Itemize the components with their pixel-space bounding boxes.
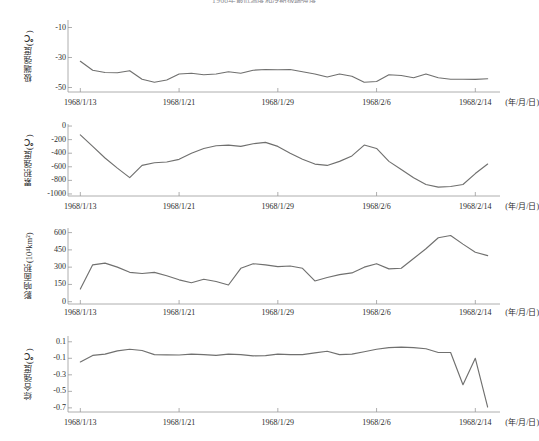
x-tick-label: 1968/1/21 xyxy=(163,202,195,211)
y-tick-label: -1000 xyxy=(47,190,66,198)
y-tick-label: -0.7 xyxy=(53,404,66,412)
chart-panel-composite-intensity: 综合强度(℃) 0.1-0.1-0.3-0.5-0.7 1968/1/13196… xyxy=(0,330,528,441)
x-tickmarks-panel-4 xyxy=(80,408,475,412)
y-tick-label: -400 xyxy=(51,149,66,157)
chart-panel-cumulative-intensity: 累积强度(℃) 0-200-400-600-800-1000 1968/1/13… xyxy=(0,118,528,224)
y-tick-label: 150 xyxy=(54,280,66,288)
y-axis-label-panel-4: 综合强度(℃) xyxy=(22,336,35,412)
y-tick-label: -30 xyxy=(55,54,66,62)
y-tickmarks-panel-2 xyxy=(68,126,72,194)
x-tick-label: 1968/1/13 xyxy=(64,202,96,211)
y-tickmarks-panel-4 xyxy=(68,342,72,408)
plot-area-panel-2 xyxy=(68,124,500,196)
x-tick-label: 1968/1/21 xyxy=(163,308,195,317)
line-chart-svg-panel-3 xyxy=(68,228,500,304)
figure-title: 1968年最低温度和冷期极端强度 xyxy=(0,0,528,3)
x-tickmarks-panel-2 xyxy=(80,192,475,196)
y-tick-label: -200 xyxy=(51,136,66,144)
plot-area-panel-1 xyxy=(68,20,500,92)
y-tick-label: -50 xyxy=(55,84,66,92)
y-tick-label: 0.1 xyxy=(56,338,66,346)
x-tick-label: 1968/1/13 xyxy=(64,308,96,317)
y-axis-label-panel-3: 影响面积(10⁴km²) xyxy=(22,228,35,304)
x-tickmarks-panel-3 xyxy=(80,300,475,304)
y-tick-label: -10 xyxy=(55,24,66,32)
x-tick-label: 1968/1/29 xyxy=(262,202,294,211)
y-tick-label: 0 xyxy=(62,122,66,130)
y-tick-label: -0.3 xyxy=(53,371,66,379)
x-tick-label: 1968/1/13 xyxy=(64,98,96,107)
x-axis-tick-labels-panel-4: 1968/1/131968/1/211968/1/291968/2/61968/… xyxy=(0,418,528,432)
x-tick-label: 1968/2/6 xyxy=(362,418,390,427)
x-tick-label: 1968/1/21 xyxy=(163,98,195,107)
x-tick-label: 1968/1/29 xyxy=(262,98,294,107)
x-axis-unit-label: (年/月/日) xyxy=(505,98,539,107)
axes-panel-4 xyxy=(68,336,500,412)
y-tick-label: 300 xyxy=(54,263,66,271)
plot-area-panel-4 xyxy=(68,336,500,412)
line-chart-svg-panel-4 xyxy=(68,336,500,412)
data-series-line-panel-3 xyxy=(80,235,487,289)
x-axis-tick-labels-panel-2: 1968/1/131968/1/211968/1/291968/2/61968/… xyxy=(0,202,528,216)
x-axis-tick-labels-panel-3: 1968/1/131968/1/211968/1/291968/2/61968/… xyxy=(0,308,528,322)
x-axis-unit-label: (年/月/日) xyxy=(505,308,539,317)
data-series-line-panel-2 xyxy=(80,135,487,187)
y-tick-label: 0 xyxy=(62,298,66,306)
x-tick-label: 1968/2/14 xyxy=(459,98,491,107)
x-axis-tick-labels-panel-1: 1968/1/131968/1/211968/1/291968/2/61968/… xyxy=(0,98,528,112)
x-tick-label: 1968/1/29 xyxy=(262,308,294,317)
line-chart-svg-panel-1 xyxy=(68,20,500,92)
x-tick-label: 1968/2/6 xyxy=(362,202,390,211)
y-tick-label: -0.1 xyxy=(53,354,66,362)
x-axis-unit-label: (年/月/日) xyxy=(505,418,539,427)
line-chart-svg-panel-2 xyxy=(68,124,500,196)
y-tick-label: -800 xyxy=(51,176,66,184)
y-tick-label: 600 xyxy=(54,229,66,237)
y-tickmarks-panel-3 xyxy=(68,233,72,302)
y-tick-label: 450 xyxy=(54,246,66,254)
data-series-line-panel-4 xyxy=(80,347,487,407)
data-series-line-panel-1 xyxy=(80,61,487,82)
y-tick-label: -0.5 xyxy=(53,387,66,395)
plot-area-panel-3 xyxy=(68,228,500,304)
x-tick-label: 1968/2/6 xyxy=(362,98,390,107)
x-tick-label: 1968/2/14 xyxy=(459,418,491,427)
y-axis-label-panel-1: 极端强度(℃) xyxy=(22,20,35,92)
axes-panel-1 xyxy=(68,20,500,92)
y-axis-label-panel-2: 累积强度(℃) xyxy=(22,124,35,196)
y-tickmarks-panel-1 xyxy=(68,28,72,88)
x-tickmarks-panel-1 xyxy=(80,88,475,92)
x-tick-label: 1968/2/14 xyxy=(459,308,491,317)
x-tick-label: 1968/1/13 xyxy=(64,418,96,427)
chart-panel-extreme-intensity: 极端强度(℃) -10-30-50 1968/1/131968/1/211968… xyxy=(0,14,528,118)
chart-panel-affected-area: 影响面积(10⁴km²) 6004503001500 1968/1/131968… xyxy=(0,224,528,330)
x-axis-unit-label: (年/月/日) xyxy=(505,202,539,211)
x-tick-label: 1968/2/6 xyxy=(362,308,390,317)
y-tick-label: -600 xyxy=(51,163,66,171)
x-tick-label: 1968/2/14 xyxy=(459,202,491,211)
x-tick-label: 1968/1/21 xyxy=(163,418,195,427)
axes-panel-2 xyxy=(68,124,500,196)
x-tick-label: 1968/1/29 xyxy=(262,418,294,427)
